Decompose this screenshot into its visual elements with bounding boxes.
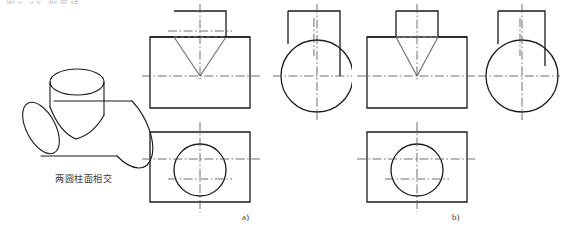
cylinder-left-face — [15, 96, 67, 159]
pictorial-caption: 两圆柱面相交 — [26, 172, 141, 185]
figure-b: .ol2{fill:none;stroke:#1a1a1a;stroke-wid… — [355, 4, 560, 214]
front-intersection-right — [200, 37, 226, 76]
figure-a-front-view — [142, 4, 260, 108]
figure-a-top-view — [142, 122, 260, 212]
front-intersection-left — [174, 37, 200, 76]
isometric-pictorial — [14, 55, 154, 175]
truncated-header-text: 图2-48 相贯线 — [6, 0, 126, 4]
figure-a-side-view — [273, 4, 352, 120]
drawing-sheet: 图2-48 相贯线 两圆柱面相交 .ol{fill:none — [0, 0, 563, 241]
figure-b-top-view — [357, 122, 477, 212]
intersection-curve-right — [76, 115, 104, 139]
figure-a-label: a) — [242, 212, 249, 222]
side-boss-outline — [498, 11, 545, 66]
intersection-curve-left — [50, 107, 76, 139]
front-intersection-right — [417, 37, 438, 76]
vertical-cylinder-top-ellipse — [50, 69, 104, 95]
figure-b-label: b) — [452, 212, 460, 222]
front-intersection-left — [396, 37, 417, 76]
figure-b-front-view — [357, 4, 477, 108]
figure-a: .ol{fill:none;stroke:#1a1a1a;stroke-widt… — [142, 4, 352, 214]
figure-b-side-view — [478, 4, 560, 120]
